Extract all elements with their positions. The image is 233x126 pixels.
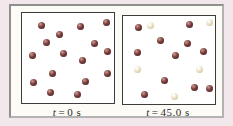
parent-nucleus-dot [103, 19, 110, 26]
parent-nucleus-dot [200, 48, 207, 55]
parent-nucleus-dot [206, 85, 213, 92]
parent-nucleus-dot [29, 52, 36, 59]
parent-nucleus-dot [74, 91, 81, 98]
parent-nucleus-dot [141, 91, 148, 98]
parent-nucleus-dot [161, 77, 168, 84]
parent-nucleus-dot [172, 52, 179, 59]
particle-box-t45 [122, 15, 216, 105]
time-value: 0 s [66, 106, 82, 118]
parent-nucleus-dot [56, 31, 63, 38]
parent-nucleus-dot [30, 79, 37, 86]
time-symbol: t [145, 106, 151, 118]
parent-nucleus-dot [135, 24, 142, 31]
parent-nucleus-dot [184, 40, 191, 47]
time-label-t0: t=0 s [21, 106, 113, 118]
parent-nucleus-dot [134, 49, 141, 56]
parent-nucleus-dot [157, 37, 164, 44]
parent-nucleus-dot [49, 70, 56, 77]
parent-nucleus-dot [79, 57, 86, 64]
parent-nucleus-dot [60, 50, 67, 57]
parent-nucleus-dot [43, 39, 50, 46]
equals-sign: = [57, 106, 66, 118]
figure-frame: t=0 s t=45.0 s [9, 4, 224, 118]
parent-nucleus-dot [104, 70, 111, 77]
decayed-nucleus-dot [171, 93, 178, 100]
decayed-nucleus-dot [196, 66, 203, 73]
parent-nucleus-dot [47, 89, 54, 96]
decayed-nucleus-dot [134, 66, 141, 73]
parent-nucleus-dot [191, 84, 198, 91]
parent-nucleus-dot [104, 48, 111, 55]
decayed-nucleus-dot [147, 22, 154, 29]
parent-nucleus-dot [38, 22, 45, 29]
equals-sign: = [151, 106, 160, 118]
time-value: 45.0 s [160, 106, 191, 118]
parent-nucleus-dot [82, 78, 89, 85]
parent-nucleus-dot [186, 21, 193, 28]
parent-nucleus-dot [91, 40, 98, 47]
decay-figure: t=0 s t=45.0 s [0, 0, 233, 126]
particle-box-t0 [21, 12, 115, 104]
parent-nucleus-dot [77, 23, 84, 30]
time-label-t45: t=45.0 s [122, 106, 214, 118]
decayed-nucleus-dot [206, 19, 213, 26]
